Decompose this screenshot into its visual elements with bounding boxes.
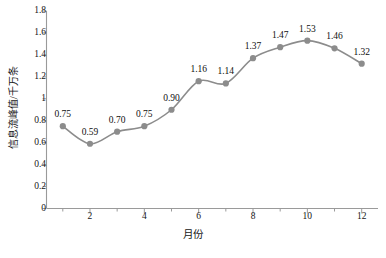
y-axis-tick-label: 1.8 [6, 6, 46, 16]
data-point-marker [250, 55, 256, 61]
data-point-label: 0.59 [70, 128, 110, 138]
x-axis-title: 月份 [0, 226, 386, 241]
x-axis-tick-label: 10 [292, 212, 322, 222]
data-point-marker [359, 61, 365, 67]
data-point-marker [277, 44, 283, 50]
x-axis-tick-label: 2 [75, 212, 105, 222]
data-point-marker [60, 123, 66, 129]
line-chart: 00.20.40.60.811.21.41.61.8 24681012 0.75… [0, 0, 386, 258]
data-point-label: 1.46 [315, 32, 355, 42]
x-axis-tick-label: 12 [347, 212, 377, 222]
data-point-marker [223, 80, 229, 86]
y-axis-tick-label: 0 [6, 204, 46, 214]
data-point-label: 0.75 [43, 110, 83, 120]
data-point-marker [87, 141, 93, 147]
data-point-label: 0.90 [152, 94, 192, 104]
x-axis-tick-label: 4 [129, 212, 159, 222]
data-point-label: 0.75 [124, 110, 164, 120]
y-axis-tick-label: 1.6 [6, 28, 46, 38]
x-axis-tick-label: 8 [238, 212, 268, 222]
data-point-label: 1.37 [233, 42, 273, 52]
data-point-label: 1.32 [342, 48, 382, 58]
y-axis-tick-label: 0.2 [6, 182, 46, 192]
y-axis-title: 信息流峰值/千万条 [5, 43, 20, 173]
data-point-marker [141, 123, 147, 129]
data-point-marker [331, 45, 337, 51]
x-axis-tick-label: 6 [184, 212, 214, 222]
data-point-marker [114, 129, 120, 135]
data-point-marker [196, 78, 202, 84]
data-point-label: 1.14 [206, 67, 246, 77]
data-point-marker [168, 107, 174, 113]
data-point-marker [304, 38, 310, 44]
